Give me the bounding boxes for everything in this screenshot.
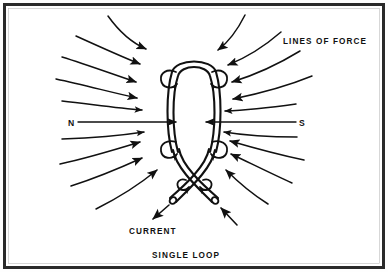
magnetic-field-diagram: LINES OF FORCE N S CURRENT SINGLE LOOP [0,0,388,272]
figure-root: LINES OF FORCE N S CURRENT SINGLE LOOP [0,0,388,272]
lines-of-force-label: LINES OF FORCE [283,37,367,46]
current-label: CURRENT [129,227,177,236]
south-pole-label: S [299,118,305,128]
north-pole-label: N [68,118,74,128]
caption-label: SINGLE LOOP [152,251,220,260]
